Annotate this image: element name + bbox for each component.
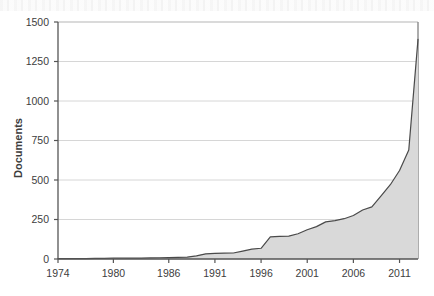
area-chart-canvas: 0250500750100012501500 19741980198619911… (0, 0, 434, 296)
x-tick-label-1974: 1974 (46, 267, 70, 279)
y-tick-label-1000: 1000 (26, 95, 50, 107)
y-tick-label-250: 250 (31, 213, 49, 225)
x-tick-label-2011: 2011 (388, 267, 411, 279)
area-fill (58, 39, 418, 259)
x-tick-label-1991: 1991 (203, 267, 227, 279)
x-tick-label-1986: 1986 (157, 267, 181, 279)
x-axis: 19741980198619911996200120062011 (46, 259, 418, 279)
x-tick-label-1996: 1996 (249, 267, 273, 279)
x-tick-label-2001: 2001 (296, 267, 320, 279)
y-axis-title: Documents (12, 118, 24, 178)
y-tick-label-1500: 1500 (26, 16, 50, 28)
gridlines (58, 22, 418, 220)
y-axis: 0250500750100012501500 (26, 16, 58, 265)
y-tick-label-500: 500 (31, 174, 49, 186)
y-tick-labels: 0250500750100012501500 (26, 16, 50, 265)
data-area-series-documents (58, 39, 418, 259)
y-tick-label-0: 0 (43, 253, 49, 265)
x-tick-label-1980: 1980 (102, 267, 126, 279)
y-tick-label-1250: 1250 (26, 55, 50, 67)
chart-figure: 0250500750100012501500 19741980198619911… (0, 0, 434, 296)
y-tick-label-750: 750 (31, 134, 49, 146)
x-tick-labels: 19741980198619911996200120062011 (46, 267, 411, 279)
x-tick-label-2006: 2006 (342, 267, 366, 279)
